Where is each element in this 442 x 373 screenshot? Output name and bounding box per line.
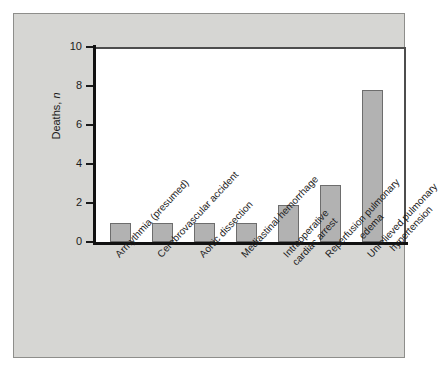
y-tick-mark-0: [86, 241, 93, 243]
y-axis-title-italic: n: [50, 92, 62, 98]
y-tick-label-6: 6: [60, 119, 82, 130]
y-tick-label-8: 8: [60, 80, 82, 91]
y-tick-mark-4: [86, 163, 93, 165]
y-tick-mark-10: [86, 46, 93, 48]
y-tick-label-0: 0: [60, 236, 82, 247]
y-tick-mark-8: [86, 85, 93, 87]
y-tick-label-2: 2: [60, 197, 82, 208]
y-tick-mark-2: [86, 202, 93, 204]
y-tick-label-10: 10: [60, 41, 82, 52]
chart-panel: 0 2 4 6 8 10 Deaths, n Arrhythmia (presu…: [13, 13, 405, 358]
y-axis-spine: [93, 45, 96, 245]
y-tick-label-4: 4: [60, 158, 82, 169]
y-tick-mark-6: [86, 124, 93, 126]
y-axis-title: Deaths, n: [50, 71, 62, 161]
y-axis-title-text: Deaths,: [50, 102, 62, 140]
